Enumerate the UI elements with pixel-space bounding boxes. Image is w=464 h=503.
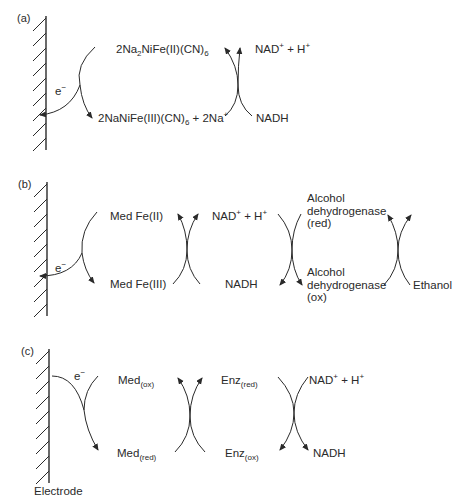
species-enz-ox: Enz(ox) [225, 447, 259, 460]
species-med-ox: Med(ox) [118, 374, 154, 387]
redox-cycle-arrows-c2 [175, 378, 205, 452]
panel-label-a: (a) [17, 12, 30, 24]
panel-label-b: (b) [18, 178, 31, 190]
electron-label-b: e− [55, 262, 66, 275]
species-na2nife-ii: 2Na2NiFe(II)(CN)6 [116, 43, 209, 56]
electron-label-c: e− [74, 370, 85, 383]
redox-cycle-arrows-c3 [278, 377, 308, 450]
species-med-red: Med(red) [117, 447, 156, 460]
redox-cycle-arrows-a2 [225, 48, 252, 116]
species-nanife-iii: 2NaNiFe(III)(CN)6 + 2Na+ [98, 112, 228, 125]
species-nad-plus-a: NAD+ + H+ [255, 43, 310, 56]
panel-label-c: (c) [21, 345, 34, 357]
electron-label-a: e− [55, 85, 66, 98]
redox-cycle-arrows-b2 [173, 214, 200, 284]
species-ethanol: Ethanol [413, 279, 452, 292]
diagram-canvas [0, 0, 464, 503]
redox-cycle-arrows-b1 [40, 212, 97, 283]
species-nad-plus-c: NAD+ + H+ [309, 374, 364, 387]
species-med-fe-ii: Med Fe(II) [110, 210, 163, 223]
species-adh-ox: Alcohol dehydrogenase (ox) [307, 266, 386, 304]
redox-cycle-arrows-b4 [384, 215, 411, 285]
species-adh-red: Alcohol dehydrogenase (red) [307, 192, 386, 230]
species-nad-plus-b: NAD+ + H+ [212, 210, 267, 223]
electrode-b [34, 182, 47, 317]
redox-cycle-arrows-b3 [278, 214, 302, 285]
redox-cycle-arrows-a1 [40, 47, 95, 118]
species-nadh-b: NADH [225, 278, 258, 291]
electrode-c [36, 349, 49, 484]
species-enz-red: Enz(red) [221, 374, 258, 387]
electrode-label: Electrode [34, 485, 83, 498]
species-nadh-a: NADH [256, 112, 289, 125]
redox-cycle-arrows-c1 [52, 376, 98, 450]
electrode-a [33, 16, 46, 151]
species-med-fe-iii: Med Fe(III) [110, 278, 166, 291]
species-nadh-c: NADH [313, 447, 346, 460]
